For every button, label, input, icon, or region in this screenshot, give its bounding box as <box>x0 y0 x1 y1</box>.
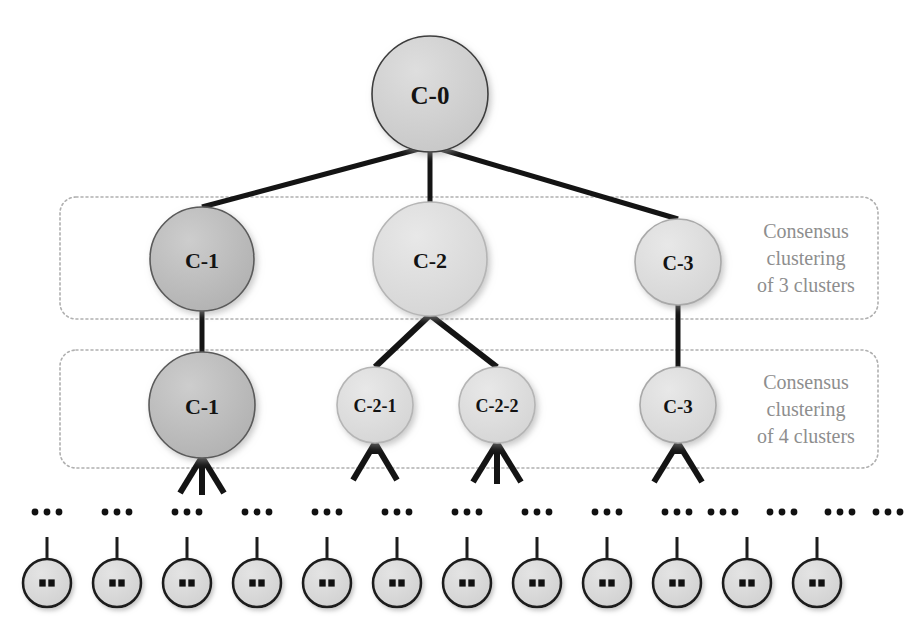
leaf-marker <box>468 579 474 586</box>
ellipsis-dot <box>791 509 798 516</box>
cluster-node-c21[interactable]: C-2-1 <box>337 367 413 443</box>
caption-level-4-clusters: Consensusclusteringof 4 clusters <box>757 371 855 447</box>
ellipsis-dot <box>686 509 693 516</box>
leaf-marker <box>328 579 334 586</box>
ellipsis-group-5 <box>382 509 413 516</box>
leaf-marker <box>179 579 185 586</box>
ellipsis-dot <box>32 509 39 516</box>
ellipsis-dot <box>546 509 553 516</box>
leaf-marker <box>109 579 115 586</box>
cluster-node-c2-a[interactable]: C-2 <box>373 202 487 316</box>
ellipsis-dot <box>604 509 611 516</box>
cluster-label-c22: C-2-2 <box>476 396 519 416</box>
cluster-node-c1-a[interactable]: C-1 <box>150 207 254 311</box>
ellipsis-dot <box>720 509 727 516</box>
ellipsis-dot <box>56 509 63 516</box>
leaf-marker <box>319 579 325 586</box>
leaf-circle <box>303 559 351 607</box>
ellipsis-dot <box>837 509 844 516</box>
ellipsis-dot <box>708 509 715 516</box>
leaf-marker <box>599 579 605 586</box>
leaf-node-8[interactable] <box>583 537 631 607</box>
ellipsis-group-11 <box>767 509 798 516</box>
cluster-nodes: C-0C-1C-2C-3C-1C-2-1C-2-2C-3 <box>149 36 721 458</box>
ellipsis-dot <box>592 509 599 516</box>
ellipsis-group-7 <box>522 509 553 516</box>
ellipsis-group-12 <box>825 509 856 516</box>
ellipsis-dot <box>172 509 179 516</box>
ellipsis-group-8 <box>592 509 623 516</box>
ellipsis-dot <box>394 509 401 516</box>
ellipsis-dot <box>406 509 413 516</box>
ellipsis-dot <box>674 509 681 516</box>
leaf-node-9[interactable] <box>653 537 701 607</box>
leaf-marker <box>459 579 465 586</box>
leaf-node-4[interactable] <box>303 537 351 607</box>
ellipsis-dot <box>266 509 273 516</box>
edge-c0-to-c1-a <box>202 146 430 207</box>
arrow-to-c22 <box>473 439 521 484</box>
cluster-label-c3-a: C-3 <box>662 252 693 274</box>
cluster-node-c0[interactable]: C-0 <box>372 36 488 152</box>
cluster-label-c0: C-0 <box>411 82 450 109</box>
leaf-node-1[interactable] <box>93 537 141 607</box>
caption-line: clustering <box>767 398 846 421</box>
ellipsis-dot <box>324 509 331 516</box>
ellipsis-group-3 <box>242 509 273 516</box>
ellipsis-dot <box>662 509 669 516</box>
cluster-label-c1-a: C-1 <box>185 248 219 273</box>
leaf-node-3[interactable] <box>233 537 281 607</box>
ellipsis-dot <box>242 509 249 516</box>
leaf-node-11[interactable] <box>793 537 841 607</box>
arrow-to-c1 <box>180 453 224 495</box>
leaf-marker <box>748 579 754 586</box>
leaf-node-2[interactable] <box>163 537 211 607</box>
ellipsis-dot <box>885 509 892 516</box>
leaf-marker <box>389 579 395 586</box>
cluster-node-c1-b[interactable]: C-1 <box>149 352 255 458</box>
leaf-marker <box>538 579 544 586</box>
cluster-label-c21: C-2-1 <box>354 396 397 416</box>
leaf-circle <box>443 559 491 607</box>
cluster-node-c3-b[interactable]: C-3 <box>640 367 716 443</box>
ellipsis-dot <box>849 509 856 516</box>
cluster-node-c3-a[interactable]: C-3 <box>635 219 721 305</box>
ellipsis-dot <box>336 509 343 516</box>
ellipsis-dot <box>534 509 541 516</box>
leaf-marker <box>608 579 614 586</box>
ellipsis-row <box>32 509 904 516</box>
ellipsis-group-4 <box>312 509 343 516</box>
cluster-node-c22[interactable]: C-2-2 <box>459 367 535 443</box>
cluster-label-c2-a: C-2 <box>413 248 447 273</box>
leaf-marker <box>669 579 675 586</box>
leaf-nodes <box>23 537 841 607</box>
ellipsis-dot <box>616 509 623 516</box>
leaf-circle <box>723 559 771 607</box>
edge-c2-a-to-c21 <box>375 315 430 367</box>
leaf-marker <box>809 579 815 586</box>
ellipsis-group-10 <box>708 509 739 516</box>
edge-c0-to-c3-a <box>430 146 678 219</box>
leaf-node-5[interactable] <box>373 537 421 607</box>
leaf-node-0[interactable] <box>23 537 71 607</box>
leaf-node-10[interactable] <box>723 537 771 607</box>
leaf-marker <box>188 579 194 586</box>
ellipsis-dot <box>254 509 261 516</box>
leaf-node-6[interactable] <box>443 537 491 607</box>
ellipsis-dot <box>522 509 529 516</box>
ellipsis-dot <box>312 509 319 516</box>
level-captions: Consensusclusteringof 3 clustersConsensu… <box>757 220 855 447</box>
edge-c2-a-to-c22 <box>430 315 497 367</box>
leaf-circle <box>583 559 631 607</box>
arrow-to-c21 <box>353 439 397 480</box>
leaf-circle <box>373 559 421 607</box>
ellipsis-dot <box>732 509 739 516</box>
caption-line: Consensus <box>763 371 849 393</box>
leaf-circle <box>93 559 141 607</box>
ellipsis-dot <box>126 509 133 516</box>
ellipsis-dot <box>184 509 191 516</box>
leaf-circle <box>23 559 71 607</box>
leaf-marker <box>39 579 45 586</box>
caption-line: of 4 clusters <box>757 425 855 447</box>
leaf-node-7[interactable] <box>513 537 561 607</box>
